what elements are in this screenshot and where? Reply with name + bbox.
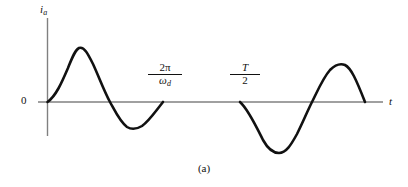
damped-current-waveform-plot: [0, 0, 408, 187]
tick-denominator: 2: [230, 75, 260, 87]
figure-panel: ia 0 t 2π ωd T 2 (a): [0, 0, 408, 187]
x-axis-label: t: [389, 96, 392, 107]
waveform-pulse-first: [48, 48, 164, 129]
tick-denominator-subscript: d: [167, 79, 171, 88]
tick-label-period-of-damped-oscillation: 2π ωd: [148, 62, 182, 88]
tick-denominator-symbol: ω: [159, 74, 167, 86]
tick-denominator: ωd: [148, 75, 182, 89]
figure-caption: (a): [0, 163, 408, 174]
y-axis-label: ia: [40, 4, 47, 17]
origin-label: 0: [21, 95, 27, 106]
tick-numerator: T: [230, 62, 260, 75]
y-axis-label-subscript: a: [43, 8, 47, 17]
tick-label-half-period: T 2: [230, 62, 260, 86]
